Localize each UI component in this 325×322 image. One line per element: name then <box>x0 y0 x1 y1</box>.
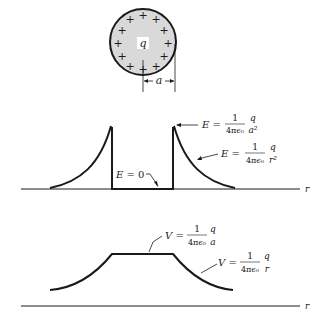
svg-text:q: q <box>250 113 256 123</box>
svg-text:V =: V = <box>165 230 184 241</box>
potential-plot: r V = 1 4πϵ₀ q a V = 1 4πϵ₀ q r <box>21 224 310 311</box>
arrowhead-icon <box>154 181 158 187</box>
svg-text:a²: a² <box>249 125 258 135</box>
potential-curve <box>50 254 233 290</box>
svg-text:r: r <box>265 264 270 274</box>
svg-text:E =: E = <box>201 119 221 130</box>
inside-field-label: E = 0 <box>115 169 144 180</box>
svg-text:1: 1 <box>232 113 238 123</box>
svg-text:r²: r² <box>269 155 277 165</box>
svg-text:1: 1 <box>252 142 258 152</box>
outside-potential-label: V = 1 4πϵ₀ q r <box>218 251 270 274</box>
svg-text:4πϵ₀: 4πϵ₀ <box>188 238 206 247</box>
svg-text:V =: V = <box>218 257 237 268</box>
outside-potential-pointer <box>201 264 217 273</box>
svg-text:q: q <box>264 251 270 261</box>
charge-plus: + <box>163 37 172 50</box>
field-curve-left <box>50 126 111 188</box>
inside-potential-label: V = 1 4πϵ₀ q a <box>165 224 216 247</box>
field-plot: r E = 0 E = 1 4πϵ₀ q a² E = 1 4πϵ₀ q r² <box>21 113 310 194</box>
svg-text:a: a <box>210 237 215 247</box>
svg-text:1: 1 <box>194 224 200 234</box>
svg-text:4πϵ₀: 4πϵ₀ <box>241 265 259 274</box>
svg-text:E =: E = <box>220 148 240 159</box>
arrowhead-icon <box>144 79 148 83</box>
charge-plus: + <box>125 60 134 73</box>
charge-plus: + <box>117 24 126 37</box>
svg-text:1: 1 <box>247 251 253 261</box>
svg-text:4πϵ₀: 4πϵ₀ <box>226 126 244 135</box>
arrowhead-icon <box>170 79 174 83</box>
field-axis-label: r <box>305 184 310 194</box>
svg-text:4πϵ₀: 4πϵ₀ <box>246 156 264 165</box>
svg-text:q: q <box>210 224 216 234</box>
charge-plus: + <box>138 9 147 22</box>
charge-plus: + <box>159 50 168 63</box>
charge-plus: + <box>159 24 168 37</box>
potential-axis-label: r <box>305 301 310 311</box>
charged-sphere: + + + + + + + + + + + + q a <box>110 9 176 92</box>
diagram-canvas: + + + + + + + + + + + + q a r E = 0 <box>0 0 325 322</box>
surface-field-label: E = 1 4πϵ₀ q a² <box>201 113 258 135</box>
arrowhead-icon <box>197 156 202 160</box>
inside-potential-pointer <box>149 236 162 252</box>
arrowhead-icon <box>176 123 181 127</box>
outside-field-label: E = 1 4πϵ₀ q r² <box>220 142 277 165</box>
charge-plus: + <box>151 60 160 73</box>
radius-label: a <box>156 74 163 87</box>
svg-text:q: q <box>270 142 276 152</box>
charge-plus: + <box>113 37 122 50</box>
charge-plus: + <box>125 13 134 26</box>
charge-label: q <box>139 37 146 50</box>
